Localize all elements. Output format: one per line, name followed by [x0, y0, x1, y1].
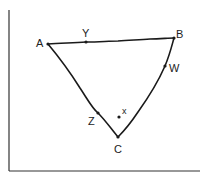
label-z: Z [88, 115, 95, 127]
label-b: B [176, 28, 183, 40]
label-a: A [36, 37, 44, 49]
point-y-dot [84, 40, 87, 43]
label-x: x [122, 106, 127, 116]
edge-ac [48, 44, 118, 137]
edge-ab [48, 38, 174, 44]
point-x-dot [117, 115, 120, 118]
point-w-dot [163, 64, 166, 67]
label-w: W [169, 62, 180, 74]
triangle-diagram: A B C Y W Z x [0, 0, 204, 177]
edge-bc [118, 38, 174, 137]
vertex-a-dot [46, 42, 49, 45]
label-y: Y [82, 27, 90, 39]
label-c: C [114, 143, 122, 155]
vertex-c-dot [116, 135, 119, 138]
point-z-dot [96, 111, 99, 114]
